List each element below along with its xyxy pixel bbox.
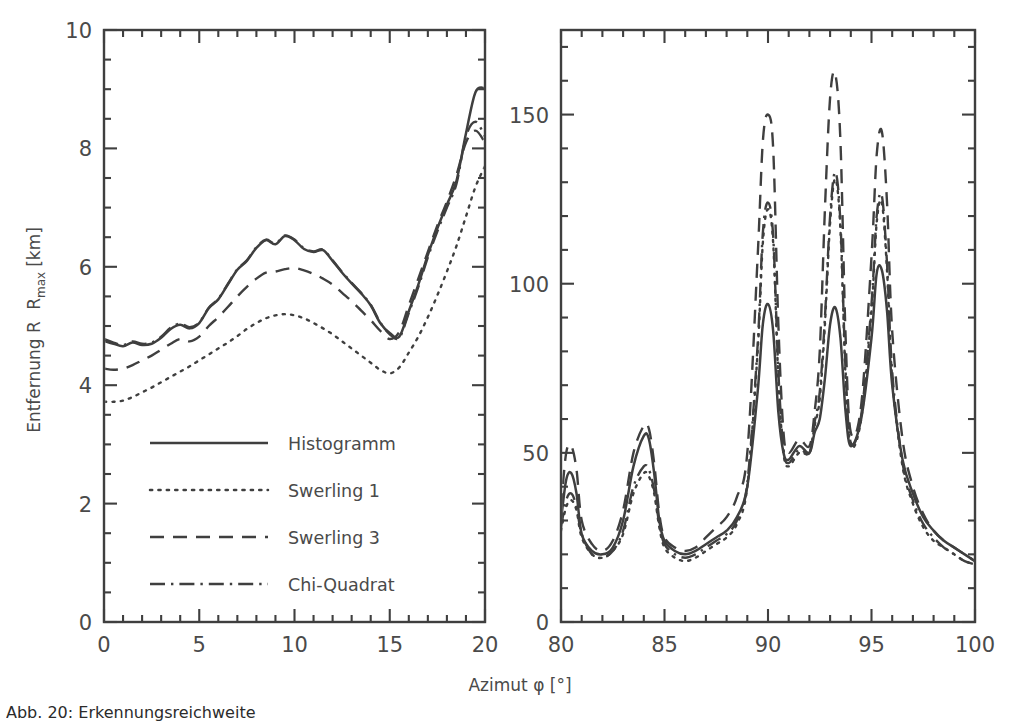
y-tick-label: 2 — [79, 493, 92, 517]
x-tick-label: 95 — [858, 633, 885, 657]
left-panel: 0246810 05101520 — [65, 19, 498, 657]
y-axis-title-subscript: max — [34, 272, 48, 298]
y-tick-label: 10 — [65, 19, 92, 43]
legend-label: Swerling 3 — [288, 528, 380, 548]
y-tick-label: 0 — [536, 611, 549, 635]
y-tick-label: 150 — [509, 104, 549, 128]
y-tick-label: 8 — [79, 137, 92, 161]
x-tick-label: 20 — [472, 633, 499, 657]
x-tick-label: 100 — [955, 633, 995, 657]
y-axis-title-text: Entfernung R — [24, 321, 44, 433]
caption-text: Abb. 20: Erkennungsreichweite — [6, 703, 256, 722]
right-panel: 050100150 80859095100 — [509, 30, 995, 657]
right-panel-x-ticklabels: 80859095100 — [548, 633, 995, 657]
x-tick-label: 90 — [755, 633, 782, 657]
x-tick-label: 5 — [193, 633, 206, 657]
y-tick-label: 100 — [509, 273, 549, 297]
left-panel-y-ticklabels: 0246810 — [65, 19, 92, 635]
y-tick-label: 0 — [79, 611, 92, 635]
y-tick-label: 50 — [522, 442, 549, 466]
y-tick-label: 6 — [79, 256, 92, 280]
legend-label: Chi-Quadrat — [288, 575, 395, 595]
two-panel-chart: 0246810 05101520 050100150 80859095100 E… — [0, 0, 1017, 723]
left-panel-x-ticklabels: 05101520 — [97, 633, 498, 657]
x-tick-label: 10 — [281, 633, 308, 657]
x-tick-label: 15 — [376, 633, 403, 657]
figure-root: 0246810 05101520 050100150 80859095100 E… — [0, 0, 1017, 723]
svg-text:Entfernung R Rmax[km]: Entfernung R Rmax[km] — [24, 227, 48, 433]
plot-canvas: 0246810 05101520 050100150 80859095100 E… — [0, 0, 1017, 723]
x-tick-label: 80 — [548, 633, 575, 657]
legend-label: Histogramm — [288, 434, 396, 454]
y-axis-title: Entfernung R Rmax[km] — [24, 227, 48, 433]
x-tick-label: 85 — [651, 633, 678, 657]
legend-label: Swerling 1 — [288, 481, 380, 501]
y-axis-title-unit: [km] — [24, 227, 44, 267]
x-axis-title: Azimut φ [°] — [468, 675, 571, 695]
right-panel-y-ticklabels: 050100150 — [509, 104, 549, 635]
y-tick-label: 4 — [79, 374, 92, 398]
figure-caption: Abb. 20: Erkennungsreichweite — [6, 703, 1006, 723]
x-tick-label: 0 — [97, 633, 110, 657]
